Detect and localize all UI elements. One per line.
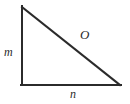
right-triangle-figure: m n O: [0, 0, 130, 104]
hypotenuse-label: O: [80, 28, 89, 41]
hypotenuse-line: [22, 7, 120, 85]
vertical-leg-label: m: [4, 46, 13, 58]
triangle-svg: [0, 0, 130, 104]
horizontal-leg-label: n: [70, 88, 76, 100]
